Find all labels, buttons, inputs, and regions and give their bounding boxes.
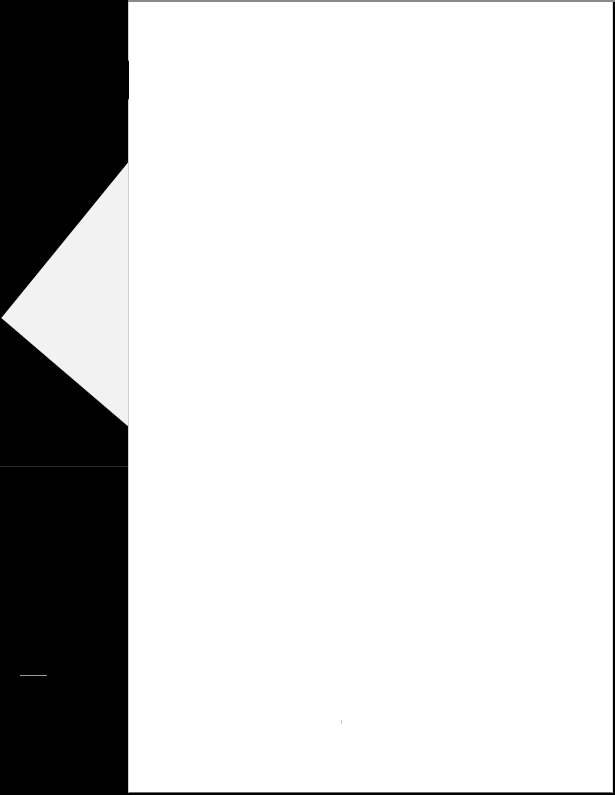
scanner-artifact-mark [20, 675, 47, 676]
blank-page [128, 2, 613, 793]
page-content [129, 2, 612, 792]
scan-speck [341, 720, 342, 724]
scanner-seam-line [0, 466, 130, 467]
page-edge-shadow [124, 60, 129, 100]
scanned-document [0, 0, 615, 795]
